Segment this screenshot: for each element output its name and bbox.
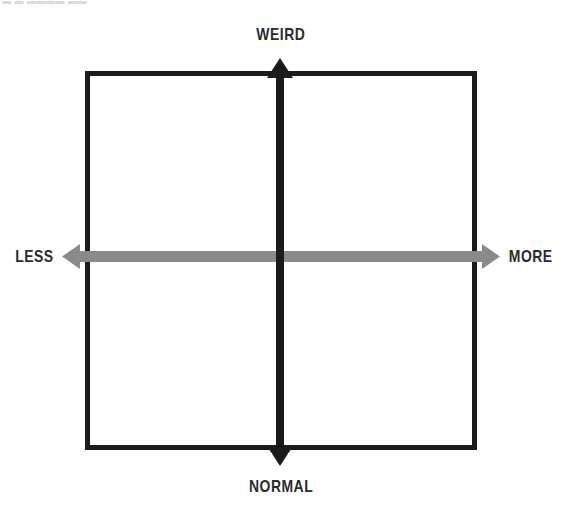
axis-label-more-text: MORE — [509, 247, 553, 267]
quadrant-top-left — [90, 76, 281, 261]
axis-label-less-text: LESS — [15, 247, 53, 267]
axis-label-normal-text: NORMAL — [249, 477, 313, 497]
quadrant-bottom-right — [281, 261, 472, 446]
axis-label-weird: WEIRD — [0, 25, 562, 45]
quadrant-box — [85, 71, 477, 450]
scan-artifact-text: ▬ ▬ ▬▬▬▬ ▬▬ — [2, 0, 122, 6]
axis-label-normal: NORMAL — [0, 477, 562, 497]
quadrant-top-right — [281, 76, 472, 261]
quadrant-bottom-left — [90, 261, 281, 446]
quadrant-diagram: ▬ ▬ ▬▬▬▬ ▬▬ WEIRD NORMAL LESS MORE — [0, 0, 562, 519]
axis-label-more: MORE — [504, 247, 562, 267]
axis-label-weird-text: WEIRD — [257, 25, 306, 45]
axis-label-less: LESS — [0, 247, 58, 267]
